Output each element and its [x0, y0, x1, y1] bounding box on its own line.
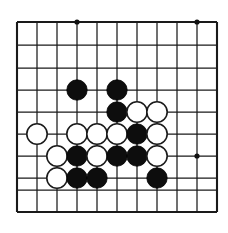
- star-point-2: [194, 153, 199, 158]
- stone-white-c7r6[interactable]: [147, 146, 167, 166]
- stone-black-c6r6[interactable]: [127, 146, 147, 166]
- stone-white-c4r6[interactable]: [87, 146, 107, 166]
- stone-black-c5r3[interactable]: [107, 80, 127, 100]
- star-point-1: [194, 19, 199, 24]
- stone-black-c5r4[interactable]: [107, 102, 127, 122]
- go-board-figure: [0, 0, 228, 233]
- stone-black-c5r6[interactable]: [107, 146, 127, 166]
- stone-white-c7r5[interactable]: [147, 124, 167, 144]
- stone-white-c2r7[interactable]: [47, 168, 67, 188]
- stone-black-c3r7[interactable]: [67, 168, 87, 188]
- stone-black-c4r7[interactable]: [87, 168, 107, 188]
- star-point-0: [74, 19, 79, 24]
- stone-black-c6r5[interactable]: [127, 124, 147, 144]
- go-board[interactable]: [0, 0, 228, 233]
- stone-black-c3r6[interactable]: [67, 146, 87, 166]
- stone-white-c3r5[interactable]: [67, 124, 87, 144]
- stone-white-c7r4[interactable]: [147, 102, 167, 122]
- stone-white-c5r5[interactable]: [107, 124, 127, 144]
- stone-white-c4r5[interactable]: [87, 124, 107, 144]
- stone-white-c2r6[interactable]: [47, 146, 67, 166]
- stone-black-c3r3[interactable]: [67, 80, 87, 100]
- stone-white-c1r5[interactable]: [27, 124, 47, 144]
- stone-white-c6r4[interactable]: [127, 102, 147, 122]
- stone-black-c7r7[interactable]: [147, 168, 167, 188]
